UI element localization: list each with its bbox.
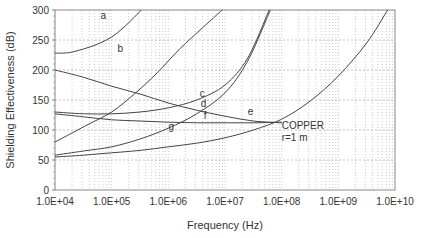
y-tick-label: 0 bbox=[43, 185, 49, 196]
grid-lines bbox=[55, 10, 395, 190]
curve-label-e: e bbox=[248, 106, 254, 117]
annotation-text: COPPER bbox=[282, 120, 324, 131]
y-axis-label: Shielding Effectiveness (dB) bbox=[4, 31, 16, 168]
x-tick-label: 1.0E+04 bbox=[36, 196, 74, 207]
curve-label-g: g bbox=[168, 121, 174, 132]
x-tick-label: 1.0E+06 bbox=[150, 196, 188, 207]
curve-label-a: a bbox=[100, 10, 106, 21]
annotations: COPPERr=1 m bbox=[282, 120, 324, 143]
curve-label-b: b bbox=[117, 43, 123, 54]
curve-label-d: d bbox=[201, 98, 207, 109]
curve-a bbox=[55, 10, 141, 53]
y-tick-label: 250 bbox=[32, 35, 49, 46]
x-axis-label: Frequency (Hz) bbox=[187, 219, 263, 231]
y-tick-label: 300 bbox=[32, 5, 49, 16]
x-axis-ticks: 1.0E+041.0E+051.0E+061.0E+071.0E+081.0E+… bbox=[36, 196, 414, 207]
x-tick-label: 1.0E+10 bbox=[376, 196, 414, 207]
y-tick-label: 50 bbox=[38, 155, 50, 166]
x-tick-label: 1.0E+09 bbox=[320, 196, 358, 207]
y-tick-label: 150 bbox=[32, 95, 49, 106]
y-tick-label: 100 bbox=[32, 125, 49, 136]
x-tick-label: 1.0E+07 bbox=[206, 196, 244, 207]
curves bbox=[55, 10, 388, 157]
x-tick-label: 1.0E+05 bbox=[93, 196, 131, 207]
y-axis-ticks: 050100150200250300 bbox=[32, 5, 55, 196]
curve-g bbox=[55, 10, 388, 157]
x-tick-label: 1.0E+08 bbox=[263, 196, 301, 207]
y-tick-label: 200 bbox=[32, 65, 49, 76]
curve-c bbox=[55, 10, 269, 114]
shielding-effectiveness-chart: abcdefg 050100150200250300 1.0E+041.0E+0… bbox=[0, 0, 425, 238]
annotation-text: r=1 m bbox=[282, 132, 308, 143]
curve-label-f: f bbox=[204, 110, 207, 121]
